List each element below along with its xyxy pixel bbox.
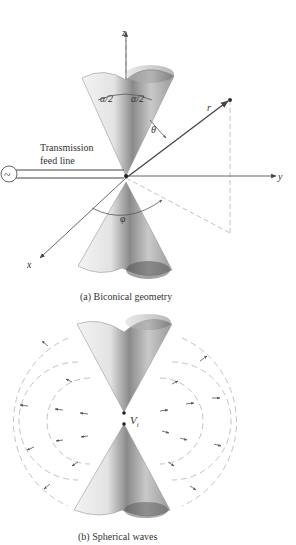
figure-a-caption: (a) Biconical geometry xyxy=(80,291,172,303)
alpha-half-left-label: α/2 xyxy=(100,93,113,104)
terminal-top xyxy=(122,411,126,415)
theta-label: θ xyxy=(151,124,156,135)
lower-cone xyxy=(78,182,172,279)
alpha-half-right-label: α/2 xyxy=(131,93,144,104)
y-axis-label: y xyxy=(277,171,283,182)
feed-line-label-2: feed line xyxy=(40,155,75,166)
lower-cone xyxy=(74,424,170,516)
point-marker xyxy=(228,98,232,102)
terminal-bottom xyxy=(122,422,126,426)
upper-cone xyxy=(82,65,174,176)
origin-point xyxy=(124,174,128,178)
figure-a-biconical-geometry: z α/2 α/2 θ r y x ~ Transmission xyxy=(1,27,283,303)
figure-b-caption: (b) Spherical waves xyxy=(78,531,158,543)
r-label: r xyxy=(207,102,211,113)
figure-b-spherical-waves: Vi (b) Spherical waves xyxy=(14,314,237,543)
voltage-label: Vi xyxy=(130,414,139,429)
lower-cone-rim xyxy=(124,502,168,518)
transmission-feed-line: ~ xyxy=(1,166,124,182)
biconical-antenna-figure: z α/2 α/2 θ r y x ~ Transmission xyxy=(0,0,296,545)
phi-label: φ xyxy=(120,213,126,224)
x-axis-label: x xyxy=(26,259,32,270)
upper-cone-rim xyxy=(125,314,171,330)
z-axis-label: z xyxy=(121,27,126,38)
feed-line-label-1: Transmission xyxy=(40,142,94,153)
upper-cone xyxy=(77,320,172,413)
source-symbol: ~ xyxy=(4,168,11,182)
